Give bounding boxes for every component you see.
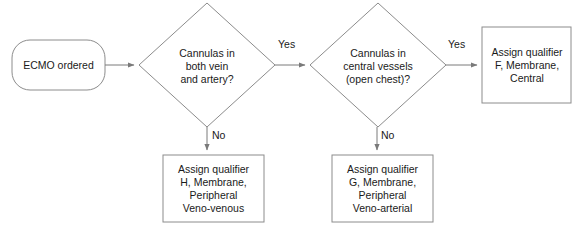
edge-label-no-decision-2: No [381,129,394,141]
edge-label-no-decision-1: No [212,129,225,141]
outcome-central-shape [482,27,571,103]
decision-2-shape [310,3,446,127]
flowchart-diagram: ECMO ordered Cannulas in both vein and a… [0,0,580,241]
edge-label-yes-decision-2: Yes [448,38,465,50]
edge-label-yes-decision-1: Yes [278,38,295,50]
decision-1-shape [139,3,275,127]
outcome-venovenous-shape [163,155,264,222]
start-node-shape [12,40,105,90]
flowchart-canvas [0,0,580,241]
outcome-venoarterial-shape [332,155,433,222]
